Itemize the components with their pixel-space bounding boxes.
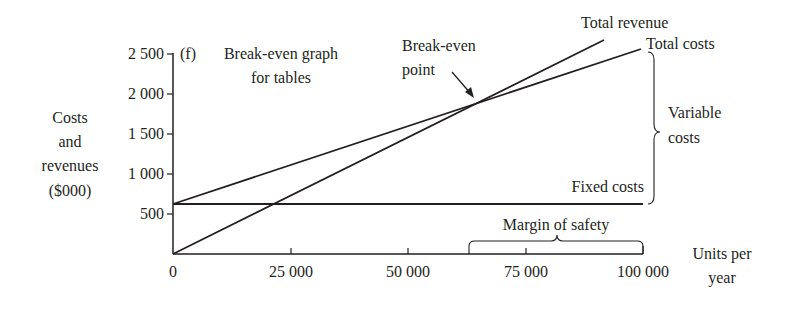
svg-text:1 500: 1 500 — [128, 125, 164, 142]
chart-title-line2: for tables — [251, 69, 311, 86]
chart-title-line1: Break-even graph — [224, 45, 338, 63]
fixed-costs-label: Fixed costs — [572, 178, 644, 195]
svg-text:75 000: 75 000 — [504, 263, 548, 280]
svg-text:2 500: 2 500 — [128, 45, 164, 62]
margin-of-safety-label: Margin of safety — [503, 216, 609, 234]
y-ticks — [167, 54, 173, 214]
break-even-label-line2: point — [402, 61, 435, 79]
svg-text:100 000: 100 000 — [617, 263, 669, 280]
variable-costs-label-line2: costs — [668, 129, 700, 146]
svg-text:and: and — [58, 133, 81, 150]
x-tick-labels: 0 25 000 50 000 75 000 100 000 — [169, 263, 669, 280]
variable-costs-brace — [648, 52, 660, 204]
panel-label: (f) — [180, 45, 196, 63]
total-costs-label: Total costs — [646, 35, 715, 52]
break-even-chart: 2 500 2 000 1 500 1 000 500 0 25 000 50 … — [0, 0, 792, 311]
svg-text:revenues: revenues — [42, 157, 99, 174]
svg-text:year: year — [708, 269, 736, 287]
y-axis-label: Costs and revenues ($000) — [42, 109, 99, 200]
break-even-arrow-icon — [452, 72, 474, 98]
svg-text:1 000: 1 000 — [128, 165, 164, 182]
margin-of-safety-brace — [469, 235, 643, 254]
variable-costs-label-line1: Variable — [668, 104, 721, 121]
total-revenue-label: Total revenue — [581, 14, 668, 31]
svg-text:Costs: Costs — [52, 109, 88, 126]
svg-text:50 000: 50 000 — [386, 263, 430, 280]
svg-text:Units per: Units per — [692, 245, 752, 263]
svg-text:2 000: 2 000 — [128, 85, 164, 102]
break-even-label-line1: Break-even — [402, 37, 476, 54]
svg-text:25 000: 25 000 — [269, 263, 313, 280]
x-axis-label: Units per year — [692, 245, 752, 287]
svg-text:500: 500 — [140, 205, 164, 222]
svg-text:($000): ($000) — [49, 182, 92, 200]
x-ticks — [291, 246, 643, 254]
svg-text:0: 0 — [169, 263, 177, 280]
y-tick-labels: 2 500 2 000 1 500 1 000 500 — [128, 45, 164, 222]
